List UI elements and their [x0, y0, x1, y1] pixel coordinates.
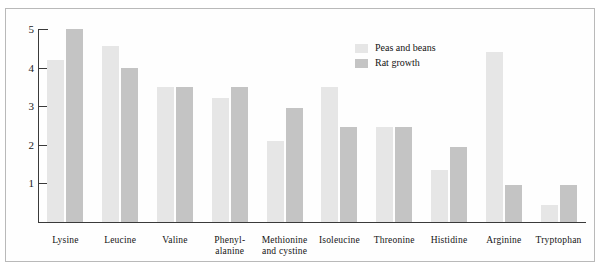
- bar-1-7: [450, 147, 467, 222]
- y-axis-line: [38, 29, 39, 223]
- bar-1-3: [231, 87, 248, 222]
- y-axis-tick-label-4: 4: [20, 63, 34, 74]
- y-axis-tick-label-2: 2: [20, 140, 34, 151]
- bar-0-3: [212, 98, 229, 222]
- bar-0-2: [157, 87, 174, 222]
- legend-label-0: Peas and beans: [375, 43, 436, 53]
- bar-0-0: [47, 60, 64, 222]
- legend-label-1: Rat growth: [375, 58, 420, 68]
- bar-1-5: [340, 127, 357, 222]
- legend-swatch-1: [355, 59, 368, 68]
- plot-area: 12345 LysineLeucineValinePhenyl-alanineM…: [0, 0, 602, 269]
- bar-0-4: [267, 141, 284, 222]
- bar-0-7: [431, 170, 448, 222]
- legend-swatch-0: [355, 44, 368, 53]
- bar-1-0: [66, 29, 83, 222]
- bar-0-8: [486, 52, 503, 222]
- y-axis-tick-label-5: 5: [20, 24, 34, 35]
- y-axis-tick-5: [39, 29, 48, 30]
- bar-1-9: [560, 185, 577, 222]
- x-axis-line: [38, 222, 586, 223]
- category-label-9: Tryptophan: [523, 235, 594, 246]
- bar-1-6: [395, 127, 412, 222]
- bar-1-4: [286, 108, 303, 222]
- bar-1-1: [121, 68, 138, 222]
- bar-1-8: [505, 185, 522, 222]
- bar-1-2: [176, 87, 193, 222]
- y-axis-tick-label-3: 3: [20, 101, 34, 112]
- bar-0-5: [321, 87, 338, 222]
- bar-0-6: [376, 127, 393, 222]
- bar-0-9: [541, 205, 558, 222]
- y-axis-tick-label-1: 1: [20, 178, 34, 189]
- legend-item-1: Rat growth: [355, 57, 436, 69]
- legend-item-0: Peas and beans: [355, 42, 436, 54]
- bar-0-1: [102, 46, 119, 222]
- chart-figure: 12345 LysineLeucineValinePhenyl-alanineM…: [0, 0, 602, 269]
- chart-legend: Peas and beansRat growth: [355, 42, 436, 72]
